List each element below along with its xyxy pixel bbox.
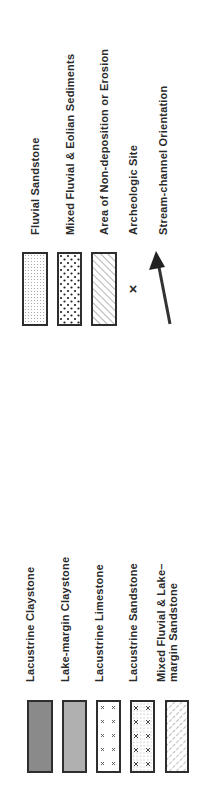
archeologic-site-x-icon: × xyxy=(127,281,139,297)
legend-label-mixed-fluvial-lake-margin-line1: Mixed Fluvial & Lake– xyxy=(155,563,167,682)
swatch-mixed-fluvial-eolian xyxy=(57,252,82,326)
legend-label-lacustrine-sandstone: Lacustrine Sandstone xyxy=(127,563,139,682)
stream-channel-arrow-icon xyxy=(145,248,180,330)
legend-label-mixed-fluvial-eolian: Mixed Fluvial & Eolian Sediments xyxy=(64,54,76,235)
legend-label-mixed-fluvial-lake-margin-line2: margin Sandstone xyxy=(167,583,179,682)
swatch-lacustrine-limestone xyxy=(96,700,121,773)
legend-label-stream-channel: Stream-channel Orientation xyxy=(157,86,169,235)
swatch-non-deposition-erosion xyxy=(91,252,117,326)
legend-label-lacustrine-limestone: Lacustrine Limestone xyxy=(93,564,105,682)
swatch-fluvial-sandstone xyxy=(22,252,48,326)
legend-label-fluvial-sandstone: Fluvial Sandstone xyxy=(29,137,41,235)
swatch-mixed-fluvial-lake-margin xyxy=(165,700,189,773)
legend-label-non-deposition-erosion: Area of Non-deposition or Erosion xyxy=(98,49,110,235)
swatch-lake-margin-claystone xyxy=(62,700,87,773)
legend-label-lake-margin-claystone: Lake-margin Claystone xyxy=(59,557,71,682)
legend-label-lacustrine-claystone: Lacustrine Claystone xyxy=(24,567,36,682)
swatch-lacustrine-claystone xyxy=(27,700,53,773)
legend-label-archeologic-site: Archeologic Site xyxy=(127,145,139,235)
swatch-lacustrine-sandstone xyxy=(130,700,155,773)
